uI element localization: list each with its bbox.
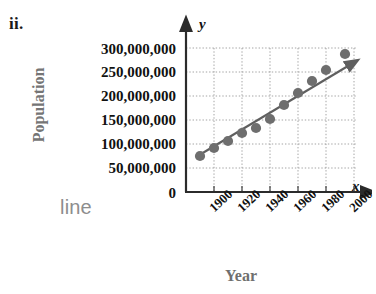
data-point: [195, 151, 205, 161]
data-point: [293, 88, 303, 98]
data-point: [340, 49, 350, 59]
data-point: [223, 136, 233, 146]
data-point: [251, 123, 261, 133]
data-point: [209, 143, 219, 153]
x-axis-title: Year: [225, 267, 257, 285]
trend-line: [196, 66, 348, 157]
data-point: [237, 128, 247, 138]
data-point: [321, 65, 331, 75]
data-point: [279, 100, 289, 110]
data-point: [307, 76, 317, 86]
data-point: [265, 114, 275, 124]
